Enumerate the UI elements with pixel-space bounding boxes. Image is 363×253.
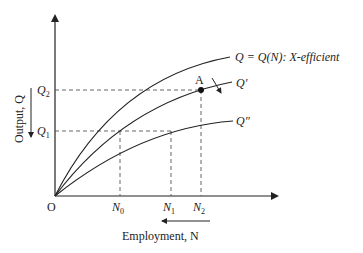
curve-label-q-double-prime: Q" [236,114,251,128]
production-function-diagram: A Q = Q(N): X-efficient Q' Q" Q2 Q1 Outp… [0,0,363,253]
y-tick-q1: Q1 [37,124,50,140]
curve-q-prime [55,82,232,196]
curve-label-q-prime: Q' [236,76,248,90]
shift-arrow-icon [212,78,221,93]
point-a [198,87,204,93]
origin-label: O [47,200,56,214]
x-tick-n2: N2 [192,200,205,216]
x-axis-label: Employment, N [122,229,199,243]
curve-x-efficient [55,57,230,196]
x-tick-n0: N0 [111,200,124,216]
point-a-label: A [195,73,204,87]
x-tick-n1: N1 [162,200,175,216]
curve-label-x-efficient: Q = Q(N): X-efficient [235,50,340,64]
y-axis-label: Output, Q [12,95,26,143]
curve-q-double-prime [55,121,233,196]
y-tick-q2: Q2 [37,83,50,99]
